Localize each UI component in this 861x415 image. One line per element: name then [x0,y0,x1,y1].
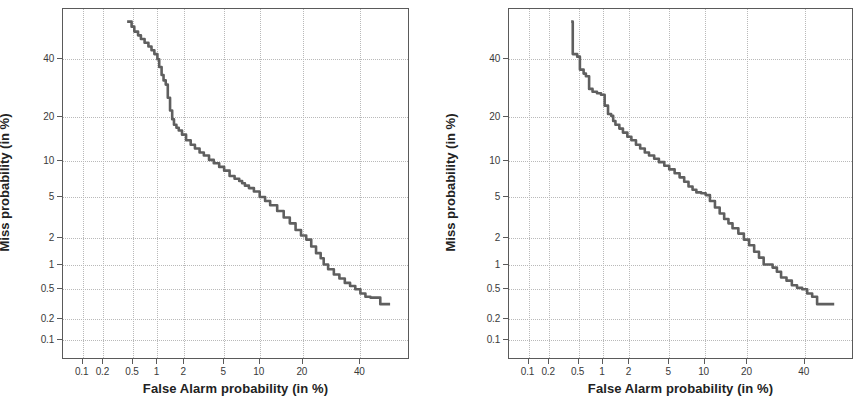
y-axis-tick-label: 2 [24,231,54,242]
y-axis-tick-label: 20 [24,111,54,122]
x-axis-tick-label: 5 [666,366,671,377]
y-axis-tick-label: 5 [470,191,500,202]
y-axis-tick-label: 20 [470,111,500,122]
y-axis-tick [503,339,508,340]
y-axis-tick-label: 0.5 [470,283,500,294]
det-curve [571,22,834,304]
x-axis-tick [704,359,705,364]
x-axis-tick [156,359,157,364]
x-axis-tick [223,359,224,364]
x-axis-tick-label: 2 [626,366,631,377]
x-axis-tick [259,359,260,364]
y-axis-tick [503,264,508,265]
y-axis-tick-label: 10 [470,155,500,166]
y-axis-tick-label: 40 [470,53,500,64]
y-axis-tick-label: 0.2 [470,313,500,324]
x-axis-tick-label: 0.2 [96,366,109,377]
y-axis-tick [57,264,62,265]
y-axis-tick [503,318,508,319]
y-axis-tick [503,116,508,117]
y-axis-tick-label: 0.5 [24,283,54,294]
curve-layer [63,9,409,359]
x-axis-tick-label: 5 [220,366,225,377]
y-axis-tick-label: 1 [24,258,54,269]
x-axis-tick-label: 40 [354,366,365,377]
y-axis-tick-label: 1 [470,258,500,269]
curve-layer [509,9,853,359]
y-axis-tick [57,288,62,289]
x-axis-tick [102,359,103,364]
x-axis-title-right: False Alarm probability (in %) [588,381,773,396]
y-axis-tick-label: 5 [24,191,54,202]
x-axis-tick [628,359,629,364]
y-axis-tick-label: 40 [24,53,54,64]
x-axis-tick [804,359,805,364]
chart-panel-left: 0.10.20.51251020404020105210.50.20.1 Fal… [0,0,430,415]
y-axis-title-left: Miss probability (in %) [0,7,12,358]
y-axis-tick [503,288,508,289]
y-axis-tick [503,237,508,238]
x-axis-tick-label: 1 [599,366,604,377]
y-axis-tick [503,160,508,161]
x-axis-tick [528,359,529,364]
x-axis-tick [302,359,303,364]
plot-area-left [62,8,409,359]
x-axis-tick-label: 0.2 [541,366,554,377]
x-axis-tick [183,359,184,364]
x-axis-tick-label: 0.1 [75,366,88,377]
y-axis-title-right: Miss probability (in %) [443,7,458,358]
x-axis-tick [82,359,83,364]
x-axis-tick-label: 10 [253,366,264,377]
x-axis-tick-label: 40 [798,366,809,377]
x-axis-tick [668,359,669,364]
plot-area-right [508,8,853,359]
y-axis-tick-label: 10 [24,155,54,166]
det-curve [127,22,390,304]
y-axis-tick [503,58,508,59]
x-axis-tick [548,359,549,364]
y-axis-tick-label: 0.2 [24,313,54,324]
y-axis-tick [57,237,62,238]
x-axis-tick-label: 2 [180,366,185,377]
y-axis-tick [503,196,508,197]
x-axis-tick [132,359,133,364]
y-axis-tick-label: 0.1 [24,334,54,345]
x-axis-tick-label: 0.5 [125,366,138,377]
x-axis-tick-label: 20 [741,366,752,377]
x-axis-tick [578,359,579,364]
x-axis-tick [359,359,360,364]
x-axis-tick-label: 1 [154,366,159,377]
y-axis-tick [57,196,62,197]
det-curves-figure: 0.10.20.51251020404020105210.50.20.1 Fal… [0,0,861,415]
x-axis-tick-label: 0.5 [571,366,584,377]
x-axis-tick-label: 0.1 [521,366,534,377]
x-axis-tick-label: 10 [698,366,709,377]
x-axis-tick [602,359,603,364]
x-axis-title-left: False Alarm probability (in %) [143,381,328,396]
y-axis-tick-label: 0.1 [470,334,500,345]
y-axis-tick [57,160,62,161]
y-axis-tick [57,116,62,117]
y-axis-tick [57,58,62,59]
x-axis-tick-label: 20 [296,366,307,377]
chart-panel-right: 0.10.20.51251020404020105210.50.20.1 Fal… [430,0,861,415]
x-axis-tick [746,359,747,364]
y-axis-tick [57,318,62,319]
y-axis-tick-label: 2 [470,231,500,242]
y-axis-tick [57,339,62,340]
